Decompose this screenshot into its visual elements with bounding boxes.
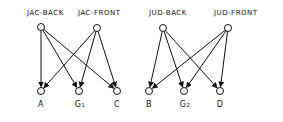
node-label-d: D: [217, 100, 224, 109]
node-jud-front: [225, 25, 232, 32]
node-label-c: C: [114, 100, 120, 109]
edge-jac-front-to-a: [44, 31, 95, 88]
node-label-jud-back: JUD-BACK: [149, 9, 187, 17]
edge-jud-front-to-b: [153, 30, 226, 88]
node-label-g1: G₁: [75, 100, 85, 109]
node-label-a: A: [38, 100, 44, 109]
node-jac-front: [94, 25, 101, 32]
edge-jud-front-to-d: [221, 31, 228, 86]
node-g1: [76, 88, 83, 95]
node-label-b: B: [146, 100, 152, 109]
edge-jac-front-to-g1: [80, 31, 96, 86]
edge-jac-back-to-c: [44, 29, 114, 88]
node-a: [38, 88, 45, 95]
nodes: [38, 24, 232, 95]
edge-jac-back-to-g1: [43, 30, 77, 87]
node-label-g2: G₂: [180, 100, 190, 109]
node-b: [146, 88, 153, 95]
node-label-jac-back: JAC-BACK: [27, 9, 64, 17]
node-label-jud-front: JUD-FRONT: [214, 9, 258, 17]
node-d: [217, 88, 224, 95]
edges: [41, 29, 228, 88]
edge-jud-back-to-b: [150, 31, 162, 86]
node-c: [114, 88, 121, 95]
edge-jac-front-to-c: [98, 31, 116, 86]
edge-jud-front-to-g2: [187, 31, 226, 87]
node-jud-back: [160, 25, 167, 32]
node-g2: [181, 88, 188, 95]
node-label-jac-front: JAC-FRONT: [78, 9, 120, 17]
node-jac-back: [38, 24, 45, 31]
